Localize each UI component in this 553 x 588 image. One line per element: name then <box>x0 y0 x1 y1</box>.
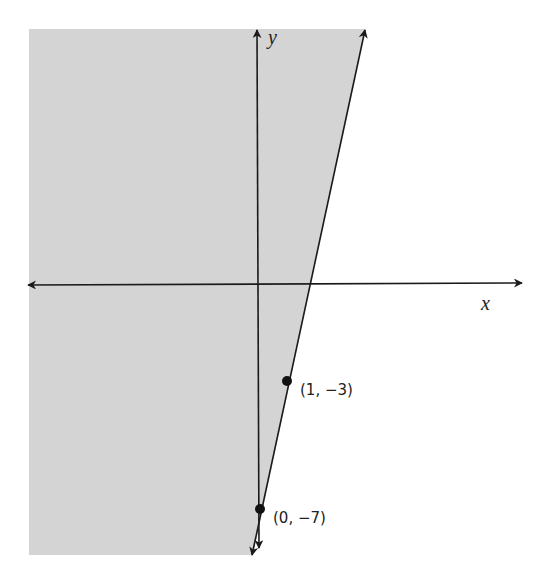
point-label-1-neg3: (1, −3) <box>300 381 353 399</box>
point-label-0-neg7: (0, −7) <box>273 509 326 527</box>
y-axis-label: y <box>266 26 277 49</box>
point-1-neg3 <box>282 376 292 386</box>
shaded-region <box>29 29 365 555</box>
point-0-neg7 <box>255 504 265 514</box>
graph-canvas: y x (1, −3) (0, −7) <box>0 0 553 588</box>
x-axis-label: x <box>480 292 490 314</box>
